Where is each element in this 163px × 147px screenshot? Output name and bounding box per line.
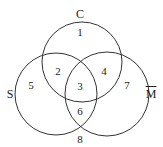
- set-label-s: S: [7, 88, 14, 100]
- region-5: 5: [28, 80, 34, 91]
- region-2: 2: [55, 66, 61, 77]
- set-label-c: C: [76, 8, 84, 20]
- region-1: 1: [77, 27, 83, 38]
- region-7: 7: [124, 80, 130, 91]
- region-6: 6: [77, 106, 83, 117]
- set-label-m-complement: M: [146, 88, 157, 100]
- region-3: 3: [77, 81, 83, 92]
- region-8: 8: [77, 134, 83, 145]
- region-4: 4: [101, 66, 107, 77]
- venn-diagram: [0, 0, 163, 147]
